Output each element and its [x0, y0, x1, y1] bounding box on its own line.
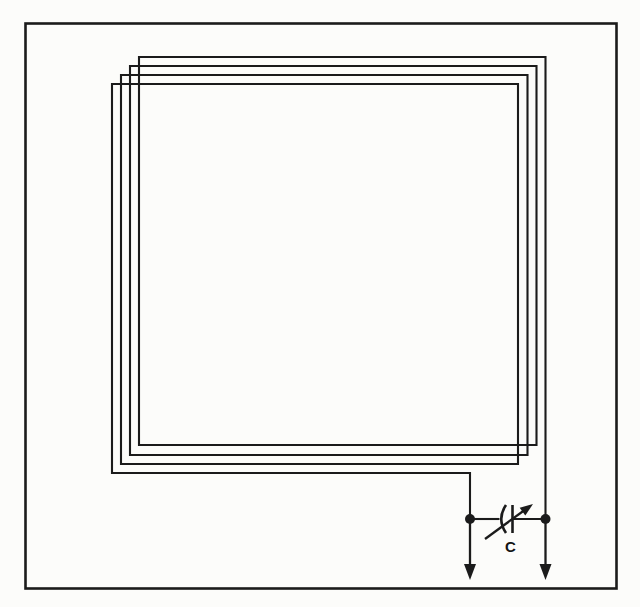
variable-arrow-icon [485, 504, 533, 539]
variable-arrow-head [520, 504, 533, 516]
diagram-canvas: C [0, 0, 640, 607]
capacitor-curved-plate [501, 505, 506, 533]
variable-arrow-shaft [485, 511, 524, 540]
terminal-arrow-right-icon [540, 519, 552, 580]
loop-coil-spiral [112, 57, 546, 519]
loop-antenna-schematic: C [0, 0, 640, 607]
capacitor-label: C [505, 538, 516, 555]
terminal-arrow-left-head [464, 564, 476, 580]
terminal-arrow-left-icon [464, 519, 476, 580]
terminal-arrow-right-head [540, 564, 552, 580]
